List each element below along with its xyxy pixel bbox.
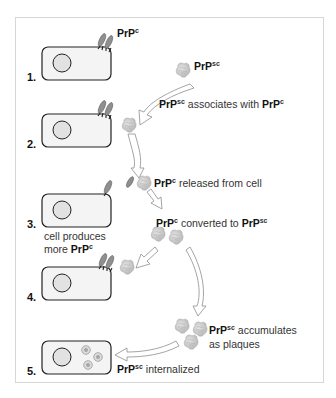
arrow-icon xyxy=(115,341,179,361)
arrow-icon xyxy=(136,247,158,268)
plaque-icon xyxy=(193,322,207,336)
label-associates: PrPsc associates with PrPc xyxy=(159,98,284,112)
label-prpc: PrPc xyxy=(117,27,139,41)
internalized-prpsc-icon xyxy=(94,353,103,362)
label-converted: PrPc converted to PrPsc xyxy=(156,217,268,231)
step-number: 4. xyxy=(27,291,36,303)
prpsc-particle-icon xyxy=(169,230,183,244)
arrow-icon xyxy=(186,247,206,316)
step-number: 2. xyxy=(27,138,36,150)
prpsc-particle-icon xyxy=(122,118,136,132)
step-number: 1. xyxy=(27,71,36,83)
cell-step-5 xyxy=(42,341,111,374)
label-internalized: PrPsc internalized xyxy=(117,363,200,377)
label-released: PrPc released from cell xyxy=(154,177,262,191)
prpsc-particle-icon xyxy=(120,260,134,274)
cell-step-2 xyxy=(42,100,114,147)
label-produces: cell produces more PrPc xyxy=(44,230,106,257)
cell-step-1 xyxy=(42,33,114,80)
internalized-prpsc-icon xyxy=(84,361,93,370)
released-prpc-icon xyxy=(125,176,135,189)
plaque-icon xyxy=(175,319,189,333)
cell-step-3 xyxy=(42,180,113,227)
plaque-icon xyxy=(184,335,198,349)
cell-step-4 xyxy=(42,253,115,300)
arrow-icon xyxy=(147,189,162,209)
arrow-icon xyxy=(128,134,144,178)
prpsc-particle-icon xyxy=(137,176,151,190)
label-prpsc: PrPsc xyxy=(194,60,220,74)
label-accumulates: PrPsc accumulates as plaques xyxy=(209,324,297,351)
step-number: 5. xyxy=(27,365,36,377)
internalized-prpsc-icon xyxy=(82,346,91,355)
prpsc-particle-icon xyxy=(176,63,190,77)
step-number: 3. xyxy=(27,218,36,230)
